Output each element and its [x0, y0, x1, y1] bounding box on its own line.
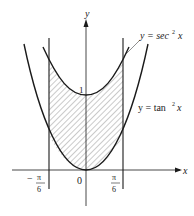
x-axis-label: x [182, 165, 188, 176]
sec-squared-label: y = sec 2 x [139, 29, 183, 41]
x-axis-arrow-icon [175, 168, 182, 173]
svg-text:π: π [112, 173, 116, 182]
y-tick-label-one: 1 [79, 85, 84, 95]
left-bound-label: − π 6 [27, 173, 45, 194]
svg-text:2: 2 [172, 101, 175, 107]
y-axis-label: y [84, 8, 90, 19]
svg-text:x: x [176, 102, 182, 113]
svg-text:y = tan: y = tan [138, 102, 166, 113]
svg-text:π: π [37, 173, 41, 182]
tan-squared-label: y = tan 2 x [138, 101, 182, 113]
svg-text:6: 6 [37, 185, 41, 194]
origin-label: 0 [77, 175, 82, 186]
svg-text:−: − [27, 173, 33, 184]
svg-text:y = sec: y = sec [139, 30, 170, 41]
right-bound-label: π 6 [111, 173, 120, 194]
svg-text:6: 6 [112, 185, 116, 194]
sec-label-leader [126, 40, 140, 54]
svg-text:2: 2 [172, 29, 175, 35]
area-between-curves-diagram: y x 0 1 y = sec 2 x y = tan 2 x − π 6 π … [0, 0, 194, 216]
svg-text:x: x [177, 30, 183, 41]
y-axis-arrow-icon [84, 19, 89, 27]
